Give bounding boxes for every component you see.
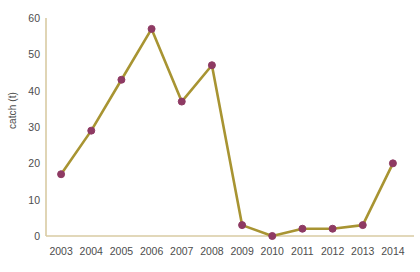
data-point [299,225,306,232]
line-chart: catch (t) 0102030405060 2003200420052006… [0,0,420,272]
data-point [389,160,396,167]
data-point [329,225,336,232]
series-markers-catch [58,25,397,239]
data-point [269,233,276,240]
data-point [239,222,246,229]
data-point [359,222,366,229]
data-point [118,76,125,83]
data-point [178,98,185,105]
data-point [58,171,65,178]
series-line-catch [61,29,393,236]
axis-lines [46,18,414,236]
plot-area [0,0,420,272]
data-point [88,127,95,134]
data-point [148,25,155,32]
data-point [208,62,215,69]
